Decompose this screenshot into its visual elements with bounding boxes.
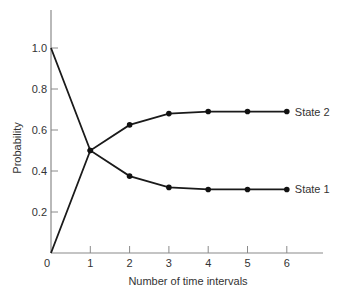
axes xyxy=(51,10,323,253)
x-tick-label: 1 xyxy=(87,257,93,269)
y-tick-label: 0.8 xyxy=(32,83,47,95)
x-axis-label: Number of time intervals xyxy=(128,275,248,287)
series-state-2: State 2 xyxy=(51,106,330,253)
data-point-marker xyxy=(205,187,211,193)
data-point-marker xyxy=(166,111,172,117)
data-point-marker xyxy=(88,148,94,154)
x-tick-label: 5 xyxy=(244,257,250,269)
x-tick-label: 2 xyxy=(127,257,133,269)
data-point-marker xyxy=(127,173,133,179)
y-axis-label: Probability xyxy=(11,122,23,174)
y-tick-label: 0.4 xyxy=(32,165,47,177)
data-point-marker xyxy=(284,109,290,115)
data-point-marker xyxy=(127,122,133,128)
x-tick-label: 4 xyxy=(205,257,211,269)
data-point-marker xyxy=(245,109,251,115)
y-tick-label: 0.6 xyxy=(32,124,47,136)
series-state-1: State 1 xyxy=(51,48,330,195)
series-label: State 2 xyxy=(295,106,330,118)
data-point-marker xyxy=(245,187,251,193)
line-chart: 0.20.40.60.81.0 0123456 Probability Numb… xyxy=(0,0,346,295)
data-point-marker xyxy=(205,109,211,115)
data-point-marker xyxy=(284,187,290,193)
series-line xyxy=(51,112,287,253)
data-point-marker xyxy=(166,185,172,191)
x-tick-label: 6 xyxy=(284,257,290,269)
series-label: State 1 xyxy=(295,183,330,195)
x-tick-label: 3 xyxy=(166,257,172,269)
x-ticks: 0123456 xyxy=(44,246,290,269)
y-ticks: 0.20.40.60.81.0 xyxy=(32,42,58,218)
x-tick-label: 0 xyxy=(44,257,50,269)
series-layer: State 2State 1 xyxy=(51,48,330,253)
y-tick-label: 0.2 xyxy=(32,206,47,218)
series-line xyxy=(51,48,287,189)
y-tick-label: 1.0 xyxy=(32,42,47,54)
